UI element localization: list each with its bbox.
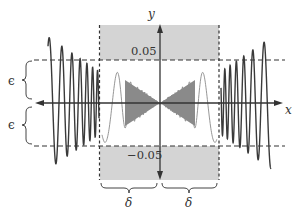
lower-tick-label: −0.05 [127, 148, 162, 162]
epsilon-braces [22, 61, 32, 144]
left-delta-label: δ [125, 196, 132, 210]
upper-epsilon-label: ϵ [8, 74, 15, 88]
delta-braces [101, 183, 217, 193]
upper-tick-label: 0.05 [131, 44, 157, 58]
x-axis-right-arrow-icon [274, 100, 283, 106]
x-axis-label: x [285, 103, 292, 117]
y-axis-label: y [147, 7, 155, 21]
left-delta-brace-icon [101, 183, 157, 193]
right-delta-label: δ [185, 196, 192, 210]
lower-epsilon-brace-icon [22, 107, 32, 144]
upper-epsilon-brace-icon [22, 61, 32, 99]
right-delta-brace-icon [162, 183, 217, 193]
diagram-canvas: y x 0.05 −0.05 ϵ ϵ δ δ [0, 0, 303, 219]
oscillation-diagram: y x 0.05 −0.05 ϵ ϵ δ δ [0, 0, 303, 219]
x-axis-left-arrow-icon [35, 100, 44, 106]
lower-epsilon-label: ϵ [8, 118, 15, 132]
